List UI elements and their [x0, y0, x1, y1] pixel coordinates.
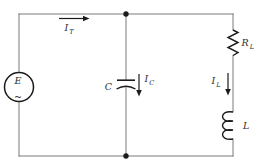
- inductor-current-subscript: L: [215, 81, 220, 89]
- resistor-subscript: L: [249, 43, 254, 51]
- resistor-base: R: [241, 37, 249, 48]
- inductor-current-base: I: [211, 75, 216, 86]
- total-current-subscript: T: [69, 28, 74, 36]
- inductor-label: L: [242, 120, 249, 131]
- capacitor-current-base: I: [144, 73, 149, 84]
- top-junction-dot: [123, 11, 128, 16]
- source-label: E: [14, 75, 22, 86]
- diagram-background: [0, 0, 267, 167]
- capacitor-current-subscript: C: [149, 79, 154, 87]
- circuit-diagram: E ~ IT C IC IL RL L: [0, 0, 267, 167]
- total-current-base: I: [64, 22, 69, 33]
- source-waveform-symbol: ~: [14, 91, 22, 102]
- bottom-junction-dot: [123, 153, 128, 158]
- capacitor-label: C: [105, 81, 113, 92]
- circuit-svg: E ~ IT C IC IL RL L: [0, 0, 267, 167]
